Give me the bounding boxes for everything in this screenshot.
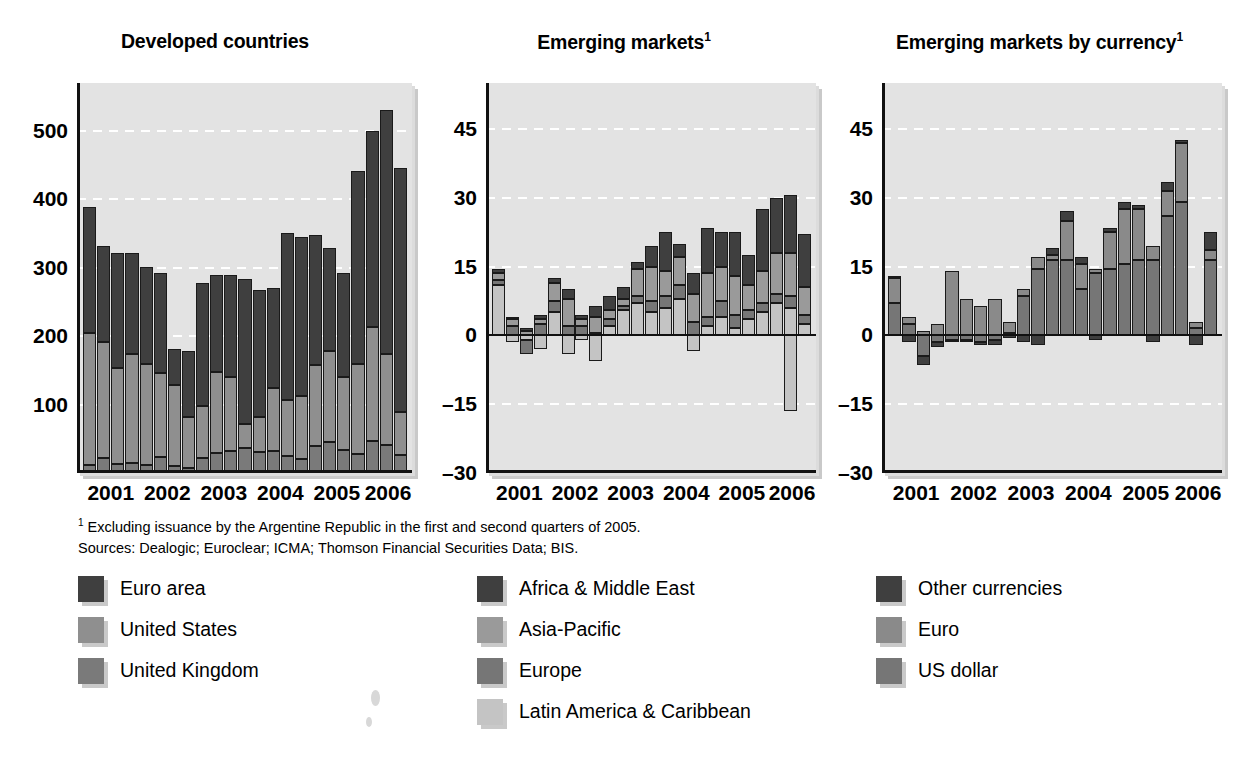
bar-segment [366, 131, 379, 327]
bar-segment [182, 351, 195, 417]
bar-segment [125, 354, 138, 463]
bar-column [1017, 83, 1030, 473]
bar-column [1175, 83, 1188, 473]
bar-column [902, 83, 915, 473]
bar-column [210, 83, 223, 473]
bar-column [506, 83, 519, 473]
bar-segment [196, 406, 209, 458]
legend-item[interactable]: Euro [876, 609, 1062, 650]
footnote-line: 1 Excluding issuance by the Argentine Re… [78, 516, 978, 538]
bar-column [351, 83, 364, 473]
bar-segment [394, 412, 407, 454]
bar-segment [534, 315, 547, 320]
bar-segment [1075, 289, 1088, 335]
bar-segment [168, 349, 181, 385]
bar-column [645, 83, 658, 473]
bar-column [111, 83, 124, 473]
legend-item[interactable]: Asia-Pacific [477, 609, 751, 650]
bar-segment [111, 253, 124, 368]
bar-segment [168, 385, 181, 466]
bar-segment [1089, 269, 1102, 274]
bar-segment [562, 335, 575, 353]
legend-item[interactable]: Europe [477, 650, 751, 691]
bar-segment [380, 354, 393, 445]
bar-segment [562, 289, 575, 298]
bar-column [960, 83, 973, 473]
bar-segment [548, 312, 561, 335]
bar-segment [351, 364, 364, 454]
bar-segment [1161, 191, 1174, 216]
bar-segment [687, 322, 700, 336]
legend-item[interactable]: Other currencies [876, 568, 1062, 609]
bar-segment [715, 317, 728, 335]
y-axis-tick-label: 200 [33, 324, 68, 348]
bar-segment [974, 335, 987, 342]
bar-segment [210, 275, 223, 373]
bar-segment [1132, 209, 1145, 259]
bar-segment [902, 317, 915, 324]
bar-segment [1132, 260, 1145, 336]
bar-column [659, 83, 672, 473]
bar-column [548, 83, 561, 473]
bar-segment [1046, 255, 1059, 260]
bar-column [394, 83, 407, 473]
legend-item[interactable]: United States [78, 609, 259, 650]
bar-segment [1060, 221, 1073, 260]
bar-segment [238, 424, 251, 448]
legend-swatch [78, 658, 104, 684]
x-axis-tick-label: 2006 [769, 481, 816, 505]
bar-column [1161, 83, 1174, 473]
bar-column [224, 83, 237, 473]
x-axis-tick-label: 2002 [144, 481, 191, 505]
bar-segment [210, 372, 223, 453]
legend-swatch [876, 576, 902, 602]
bar-segment [1103, 269, 1116, 336]
legend-item[interactable]: United Kingdom [78, 650, 259, 691]
bar-column [988, 83, 1001, 473]
y-axis-tick-label: 100 [33, 393, 68, 417]
x-axis-tick-label: 2004 [1065, 481, 1112, 505]
bar-segment [1189, 335, 1202, 344]
legend-item[interactable]: Euro area [78, 568, 259, 609]
panel-title-2-footnote-marker: 1 [704, 30, 710, 44]
x-axis-tick-label: 2001 [87, 481, 134, 505]
bar-column [974, 83, 987, 473]
legend-swatch-color [477, 658, 503, 684]
bar-segment [1132, 205, 1145, 210]
bar-segment [1060, 260, 1073, 336]
bar-segment [673, 244, 686, 258]
bar-column [1075, 83, 1088, 473]
bar-column [603, 83, 616, 473]
legend-swatch-color [876, 617, 902, 643]
bar-column [267, 83, 280, 473]
bar-column [687, 83, 700, 473]
y-axis-tick-label: 500 [33, 119, 68, 143]
legend-item-label: United States [120, 618, 237, 641]
legend-swatch [78, 576, 104, 602]
bar-segment [492, 273, 505, 280]
bar-column [83, 83, 96, 473]
bar-column [562, 83, 575, 473]
bar-segment [742, 310, 755, 319]
bar-segment [1161, 216, 1174, 335]
bar-segment [770, 303, 783, 335]
bar-segment [589, 317, 602, 333]
bar-segment [1118, 209, 1131, 264]
bar-column [380, 83, 393, 473]
bar-segment [659, 296, 672, 307]
bar-segment [756, 312, 769, 335]
bar-segment [295, 237, 308, 396]
bar-segment [492, 285, 505, 335]
legend-item[interactable]: Africa & Middle East [477, 568, 751, 609]
bar-segment [742, 255, 755, 285]
panel-title-1: Developed countries [0, 30, 430, 53]
bar-segment [97, 246, 110, 342]
legend-item[interactable]: US dollar [876, 650, 1062, 691]
bar-column [1031, 83, 1044, 473]
bar-segment [182, 417, 195, 468]
x-axis-tick-label: 2003 [607, 481, 654, 505]
legend-swatch-color [876, 658, 902, 684]
legend-item[interactable]: Latin America & Caribbean [477, 691, 751, 732]
bar-segment [140, 267, 153, 364]
bar-segment [1175, 140, 1188, 142]
